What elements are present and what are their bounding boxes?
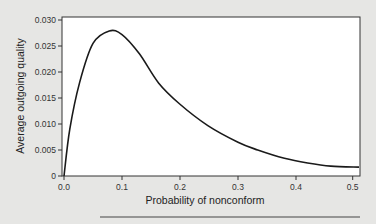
x-tick-label: 0.2 (174, 182, 186, 192)
x-tick-label: 0.0 (58, 182, 70, 192)
x-tick-label: 0.5 (347, 182, 359, 192)
y-tick-label: 0.025 (35, 41, 57, 51)
y-tick-label: 0.010 (35, 119, 57, 129)
x-tick-label: 0.4 (290, 182, 302, 192)
y-tick-label: 0.015 (35, 93, 57, 103)
y-tick-label: 0 (51, 171, 56, 181)
x-tick-label: 0.3 (232, 182, 244, 192)
x-axis-ticks: 0.00.10.20.30.40.5 (58, 176, 359, 192)
y-tick-label: 0.005 (35, 145, 57, 155)
y-tick-label: 0.030 (35, 15, 57, 25)
x-axis-label: Probability of nonconform (145, 194, 264, 206)
y-axis-ticks: 00.0050.0100.0150.0200.0250.030 (35, 15, 62, 181)
y-axis-label: Average outgoing quality (14, 38, 26, 154)
plot-area (62, 17, 360, 176)
x-tick-label: 0.1 (116, 182, 128, 192)
aoq-chart: 00.0050.0100.0150.0200.0250.030 0.00.10.… (0, 0, 376, 224)
y-tick-label: 0.020 (35, 67, 57, 77)
